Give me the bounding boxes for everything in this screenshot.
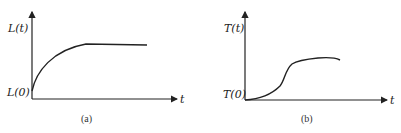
chart-b-x-label: t bbox=[390, 94, 394, 107]
chart-b-y0-label: T(0) bbox=[223, 88, 246, 101]
chart-b-curve bbox=[245, 58, 340, 100]
chart-b bbox=[245, 12, 387, 100]
chart-b-y-label: T(t) bbox=[224, 22, 244, 35]
chart-a-curve bbox=[32, 44, 147, 91]
chart-a bbox=[32, 12, 177, 99]
chart-b-caption: (b) bbox=[301, 113, 313, 124]
chart-a-y-label: L(t) bbox=[8, 22, 28, 35]
chart-a-x-label: t bbox=[180, 93, 184, 106]
chart-a-caption: (a) bbox=[81, 113, 92, 124]
charts-canvas bbox=[0, 0, 401, 133]
chart-a-y0-label: L(0) bbox=[7, 86, 30, 99]
